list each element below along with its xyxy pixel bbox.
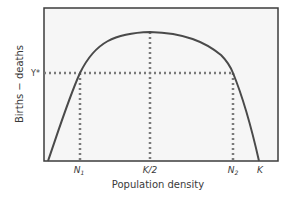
x-tick-k: K [257,165,264,175]
y-tick-ystar: Y* [30,69,40,78]
y-axis-label: Births − deaths [14,45,25,123]
x-tick-k-half: K/2 [143,165,158,175]
x-tick-n1: N1 [74,165,85,176]
x-tick-n2: N2 [228,165,239,176]
x-axis-label: Population density [112,179,204,190]
yield-chart: Y* N1 K/2 N2 K Population density Births… [0,0,293,198]
